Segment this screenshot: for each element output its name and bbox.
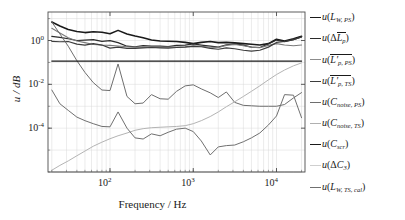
legend-item-6[interactable]: u(Cscr) bbox=[310, 134, 348, 155]
legend-swatch-icon bbox=[310, 81, 321, 82]
legend-label: u(Cnoise, TS) bbox=[322, 118, 364, 129]
legend-swatch-icon bbox=[310, 187, 321, 188]
legend-swatch-icon bbox=[310, 144, 321, 145]
legend-label: u(LW, PS) bbox=[322, 12, 355, 23]
legend-label: u(L′p, TS) bbox=[322, 75, 355, 87]
y-tick-label-2: 10-4 bbox=[18, 121, 44, 133]
legend-label: u(Cnoise, PS) bbox=[322, 97, 365, 108]
legend-item-4[interactable]: u(Cnoise, PS) bbox=[310, 92, 365, 113]
legend-item-0[interactable]: u(LW, PS) bbox=[310, 7, 355, 28]
legend-swatch-icon bbox=[310, 102, 321, 103]
legend-item-8[interactable]: u(LW, TS, cal) bbox=[310, 177, 365, 198]
legend-item-5[interactable]: u(Cnoise, TS) bbox=[310, 113, 364, 134]
legend-label: u(L′p, PS) bbox=[322, 54, 355, 66]
legend-item-2[interactable]: u(L′p, PS) bbox=[310, 49, 355, 70]
y-tick-label-1: 10-2 bbox=[18, 77, 44, 89]
x-axis-label: Frequency / Hz bbox=[0, 198, 305, 210]
x-tick-label-2: 104 bbox=[264, 176, 278, 188]
legend-label: u(ΔC3) bbox=[322, 160, 350, 171]
legend-label: u(ΔLp) bbox=[322, 32, 349, 44]
legend-swatch-icon bbox=[310, 17, 321, 18]
x-tick-label-1: 103 bbox=[181, 176, 195, 188]
legend-label: u(LW, TS, cal) bbox=[322, 182, 365, 193]
legend-swatch-icon bbox=[310, 38, 321, 39]
legend-swatch-icon bbox=[310, 123, 321, 124]
legend-item-7[interactable]: u(ΔC3) bbox=[310, 155, 350, 176]
legend-label: u(Cscr) bbox=[322, 139, 348, 150]
x-tick-label-0: 102 bbox=[98, 176, 112, 188]
legend-swatch-icon bbox=[310, 59, 321, 60]
legend-swatch-icon bbox=[310, 165, 321, 166]
legend-item-3[interactable]: u(L′p, TS) bbox=[310, 71, 355, 92]
legend-item-1[interactable]: u(ΔLp) bbox=[310, 28, 349, 49]
y-tick-label-0: 100 bbox=[18, 34, 44, 46]
